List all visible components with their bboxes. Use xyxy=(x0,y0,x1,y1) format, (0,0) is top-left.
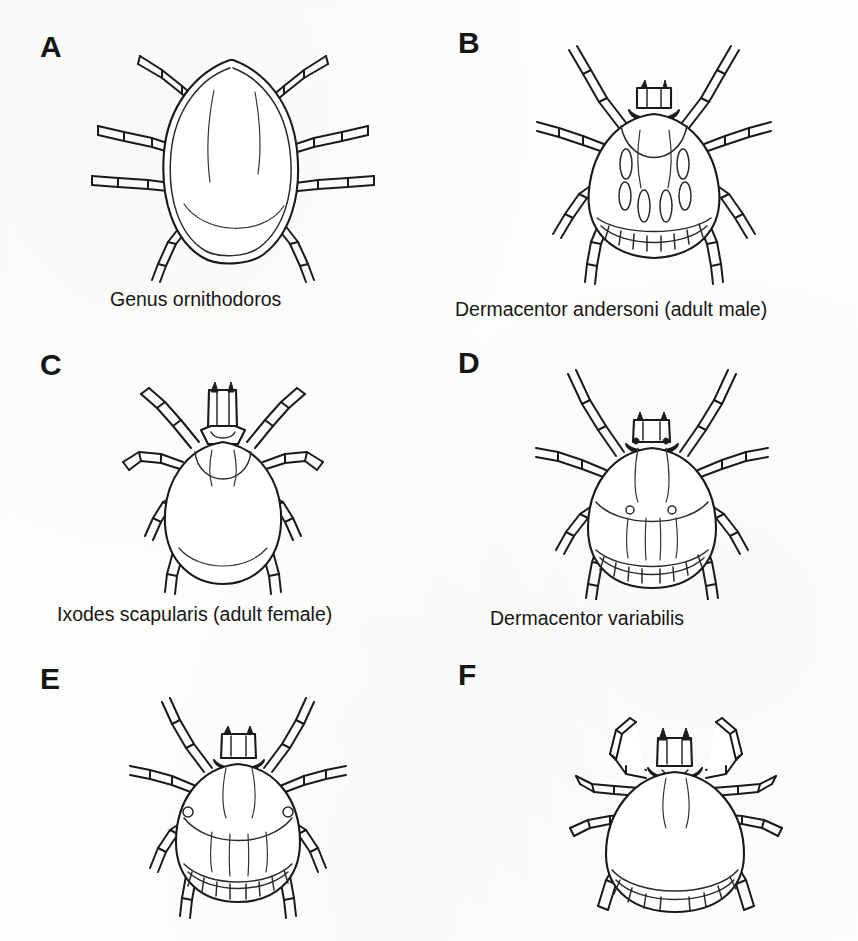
panel-letter-d: D xyxy=(458,348,480,378)
tick-illustration-c xyxy=(95,352,350,597)
caption-panel-a: Genus ornithodoros xyxy=(110,288,281,310)
panel-letter-b: B xyxy=(458,28,480,58)
tick-identification-figure: A xyxy=(0,0,858,941)
tick-illustration-f xyxy=(542,672,810,920)
panel-letter-a: A xyxy=(40,32,62,62)
tick-illustration-a xyxy=(78,28,378,283)
tick-illustration-e xyxy=(112,672,362,920)
panel-letter-c: C xyxy=(40,350,62,380)
caption-panel-d: Dermacentor variabilis xyxy=(490,607,684,629)
panel-letter-f: F xyxy=(458,660,476,690)
caption-panel-b: Dermacentor andersoni (adult male) xyxy=(455,298,767,320)
panel-letter-e: E xyxy=(40,664,60,694)
tick-illustration-d xyxy=(520,352,785,600)
tick-illustration-b xyxy=(525,30,785,285)
caption-panel-c: Ixodes scapularis (adult female) xyxy=(57,603,332,625)
